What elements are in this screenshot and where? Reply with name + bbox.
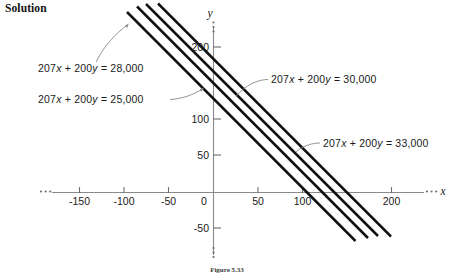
y-axis-top-ellipsis [212,21,214,32]
eq-30000-equals: = [334,73,340,85]
eq-25000-coef-x: 207 [38,93,56,105]
eq-25000-plus: + [65,93,71,105]
leader-line-25000 [170,88,204,100]
eq-30000-var-y: y [325,73,330,85]
leader-line-28000 [96,24,129,62]
y-tick-label-50: 50 [197,149,209,161]
x-axis-left-ellipsis [40,190,51,192]
eq-33000-coef-y: 200 [359,137,377,149]
x-tick-label--50: -50 [161,195,176,207]
equation-label-33000: 207x + 200y = 33,000 [323,137,429,149]
y-tick-label--50: -50 [194,222,209,234]
eq-28000-equals: = [101,62,107,74]
x-tick-label-50: 50 [252,195,264,207]
eq-25000-var-x: x [56,93,61,105]
x-axis-label: x [439,185,446,197]
eq-30000-plus: + [298,73,304,85]
eq-33000-var-y: y [377,137,382,149]
eq-25000-coef-y: 200 [74,93,92,105]
eq-33000-value: 33,000 [395,137,428,149]
eq-33000-var-x: x [341,137,346,149]
x-tick-label--100: -100 [113,195,134,207]
eq-28000-coef-y: 200 [74,62,92,74]
x-tick-label--150: -150 [69,195,90,207]
y-axis-label: y [206,7,213,20]
eq-33000-plus: + [350,137,356,149]
eq-28000-var-x: x [56,62,61,74]
y-tick-label-200: 200 [191,41,209,53]
eq-30000-coef-y: 200 [307,73,325,85]
x-axis-right-ellipsis [426,190,437,192]
eq-28000-var-y: y [92,62,97,74]
y-axis-bottom-ellipsis [212,247,214,258]
eq-28000-coef-x: 207 [38,62,56,74]
eq-30000-var-x: x [289,73,294,85]
eq-25000-var-y: y [92,93,97,105]
equation-label-25000: 207x + 200y = 25,000 [38,93,144,105]
eq-28000-value: 28,000 [110,62,143,74]
equation-label-28000: 207x + 200y = 28,000 [38,62,144,74]
eq-25000-value: 25,000 [110,93,143,105]
leader-arrow-28000 [125,24,129,28]
figure-caption: Figure 5.33 [0,266,454,274]
eq-33000-equals: = [386,137,392,149]
x-tick-label-200: 200 [383,195,401,207]
eq-30000-coef-x: 207 [271,73,289,85]
eq-28000-plus: + [65,62,71,74]
eq-25000-equals: = [101,93,107,105]
eq-33000-coef-x: 207 [323,137,341,149]
y-tick-label-100: 100 [191,113,209,125]
x-tick-label-100: 100 [294,195,312,207]
eq-30000-value: 30,000 [343,73,376,85]
equation-label-30000: 207x + 200y = 30,000 [271,73,377,85]
x-tick-label-0: 0 [201,195,207,207]
leader-arrow-25000 [200,88,204,92]
